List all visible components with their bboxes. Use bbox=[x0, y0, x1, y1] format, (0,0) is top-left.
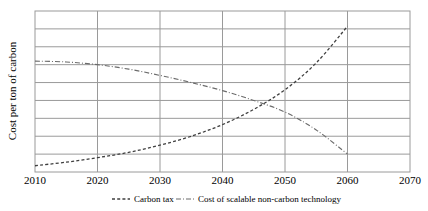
carbon-cost-line-chart: 2010202020302040205020602070 Cost per to… bbox=[0, 0, 428, 211]
chart-legend: Carbon tax Cost of scalable non-carbon t… bbox=[112, 194, 341, 204]
x-axis-tick-label: 2020 bbox=[87, 174, 110, 186]
x-axis-tick-label: 2050 bbox=[274, 174, 297, 186]
x-axis-tick-label: 2030 bbox=[149, 174, 172, 186]
legend-label-cost-of-scalable-non-carbon-technology: Cost of scalable non-carbon technology bbox=[198, 194, 341, 204]
x-axis-tick-label: 2070 bbox=[399, 174, 422, 186]
chart-container: 2010202020302040205020602070 Cost per to… bbox=[0, 0, 428, 211]
x-axis-tick-labels: 2010202020302040205020602070 bbox=[24, 174, 422, 186]
x-axis-tick-label: 2010 bbox=[24, 174, 47, 186]
legend-label-carbon-tax: Carbon tax bbox=[134, 194, 174, 204]
x-axis-tick-label: 2040 bbox=[212, 174, 235, 186]
y-axis-title: Cost per ton of carbon bbox=[6, 41, 18, 140]
x-axis-tick-label: 2060 bbox=[337, 174, 360, 186]
